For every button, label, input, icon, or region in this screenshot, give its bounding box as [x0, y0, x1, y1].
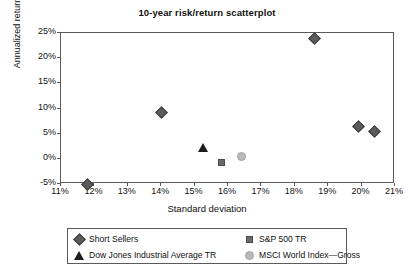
legend-item-label: S&P 500 TR — [259, 235, 306, 244]
legend-item[interactable]: MSCI World Index—Gross — [243, 247, 360, 263]
legend-item-label: Dow Jones Industrial Average TR — [89, 251, 216, 260]
y-tick-label: 25% — [24, 26, 56, 36]
x-tick-label: 20% — [344, 186, 378, 196]
x-tick-mark — [127, 183, 128, 186]
x-tick-mark — [260, 183, 261, 186]
y-tick-label: 20% — [24, 51, 56, 61]
x-tick-label: 14% — [143, 186, 177, 196]
y-tick-label: 0% — [24, 152, 56, 162]
x-tick-mark — [227, 183, 228, 186]
triangle-icon — [73, 249, 85, 261]
y-tick-label: 10% — [24, 102, 56, 112]
circle-marker — [245, 251, 254, 260]
y-tick-label: 5% — [24, 127, 56, 137]
square-marker — [246, 236, 253, 243]
legend-item-label: MSCI World Index—Gross — [259, 251, 360, 260]
x-axis-title: Standard deviation — [0, 203, 414, 214]
x-tick-mark — [194, 183, 195, 186]
legend-item[interactable]: Dow Jones Industrial Average TR — [73, 247, 216, 263]
x-tick-label: 16% — [210, 186, 244, 196]
x-tick-label: 11% — [43, 186, 77, 196]
data-point-circle — [237, 152, 246, 161]
data-point-diamond — [352, 120, 365, 133]
x-tick-label: 19% — [310, 186, 344, 196]
data-point-diamond — [308, 32, 321, 45]
x-tick-label: 17% — [243, 186, 277, 196]
x-tick-mark — [160, 183, 161, 186]
x-tick-mark — [361, 183, 362, 186]
diamond-icon — [73, 233, 85, 245]
y-tick-label: 15% — [24, 76, 56, 86]
x-tick-mark — [327, 183, 328, 186]
y-axis-title: Annualized return — [12, 0, 22, 93]
data-point-diamond — [155, 106, 168, 119]
square-icon — [243, 233, 255, 245]
legend: Short SellersS&P 500 TRDow Jones Industr… — [67, 228, 347, 264]
chart-title: 10-year risk/return scatterplot — [0, 7, 414, 18]
data-point-diamond — [369, 125, 382, 138]
x-tick-mark — [294, 183, 295, 186]
x-tick-label: 12% — [76, 186, 110, 196]
x-tick-label: 18% — [277, 186, 311, 196]
scatterplot-figure: 10-year risk/return scatterplot Annualiz… — [0, 0, 414, 278]
legend-item[interactable]: S&P 500 TR — [243, 231, 306, 247]
x-tick-label: 21% — [377, 186, 411, 196]
legend-item[interactable]: Short Sellers — [73, 231, 138, 247]
x-tick-mark — [394, 183, 395, 186]
legend-item-label: Short Sellers — [89, 235, 138, 244]
data-point-triangle — [198, 143, 208, 152]
x-tick-label: 15% — [177, 186, 211, 196]
x-tick-mark — [60, 183, 61, 186]
diamond-marker — [73, 233, 86, 246]
x-tick-label: 13% — [110, 186, 144, 196]
circle-icon — [243, 249, 255, 261]
triangle-marker — [74, 251, 84, 260]
data-point-square — [218, 159, 225, 166]
plot-area — [60, 32, 394, 183]
